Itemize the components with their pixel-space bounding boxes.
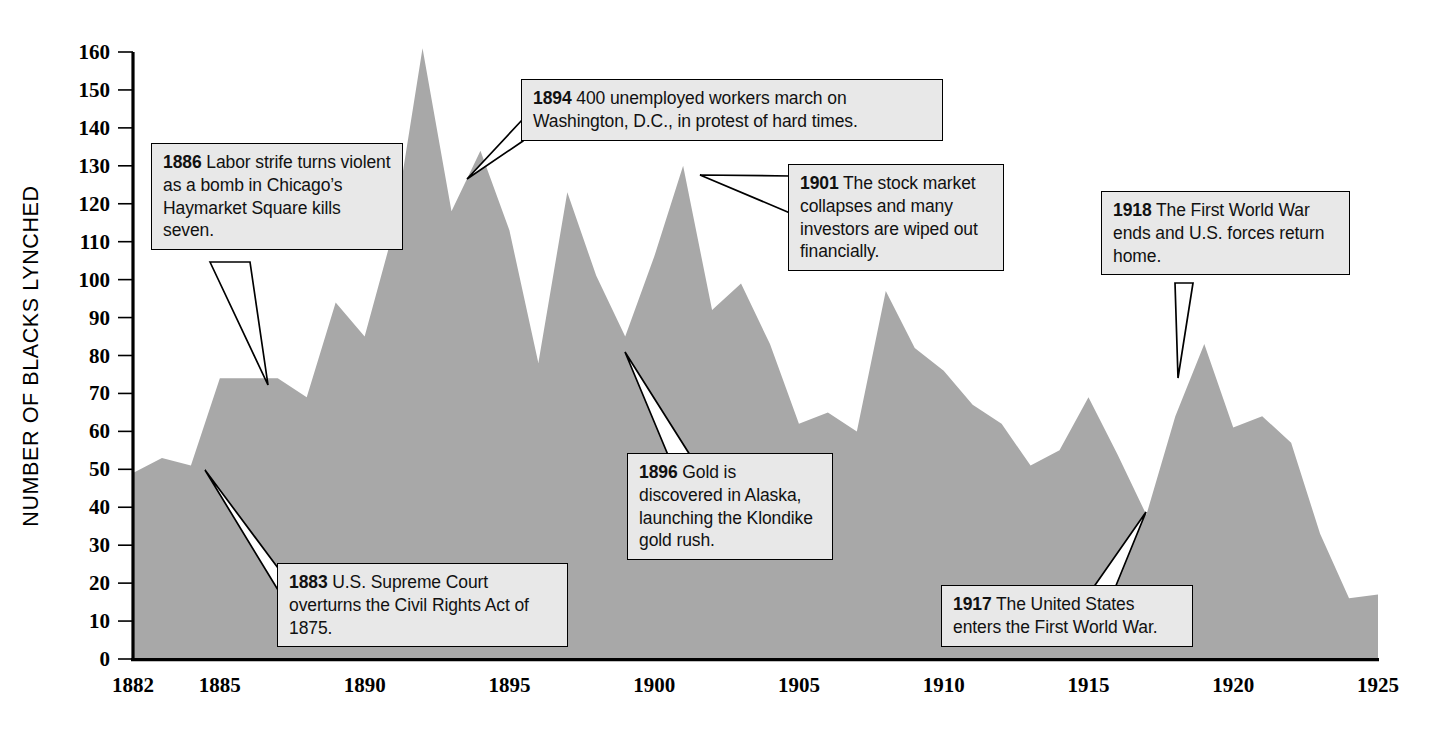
x-tick-label: 1895	[488, 673, 530, 697]
callout-1883-year: 1883	[289, 572, 328, 592]
x-tick-label: 1882	[112, 673, 154, 697]
y-tick-label: 140	[79, 116, 111, 140]
x-tick-label: 1890	[344, 673, 386, 697]
x-tick-label: 1905	[778, 673, 820, 697]
callout-1918-year: 1918	[1113, 200, 1152, 220]
callout-1901-year: 1901	[800, 173, 839, 193]
y-tick-label: 40	[89, 495, 110, 519]
y-tick-label: 70	[89, 381, 110, 405]
callout-1896-year: 1896	[639, 462, 678, 482]
callout-1894-year: 1894	[533, 88, 572, 108]
y-tick-label: 60	[89, 419, 110, 443]
callout-1901[interactable]: 1901 The stock market collapses and many…	[788, 164, 1004, 271]
callout-1886-year: 1886	[163, 152, 202, 172]
y-tick-label: 80	[89, 344, 110, 368]
y-tick-label: 160	[79, 40, 111, 64]
y-axis-title: NUMBER OF BLACKS LYNCHED	[19, 185, 43, 526]
x-tick-label: 1900	[633, 673, 675, 697]
callout-1894[interactable]: 1894 400 unemployed workers march on Was…	[521, 79, 943, 141]
y-tick-label: 90	[89, 306, 110, 330]
y-tick-label: 150	[79, 78, 111, 102]
y-tick-label: 0	[100, 647, 111, 671]
x-tick-label: 1910	[923, 673, 965, 697]
callout-1918[interactable]: 1918 The First World War ends and U.S. f…	[1101, 191, 1350, 275]
x-tick-label: 1915	[1067, 673, 1109, 697]
y-tick-label: 100	[79, 268, 111, 292]
x-tick-label: 1920	[1212, 673, 1254, 697]
callout-1883[interactable]: 1883 U.S. Supreme Court overturns the Ci…	[277, 563, 568, 647]
callout-1886[interactable]: 1886 Labor strife turns violent as a bom…	[151, 143, 403, 250]
y-tick-label: 50	[89, 457, 110, 481]
x-tick-label: 1925	[1357, 673, 1399, 697]
callout-1896[interactable]: 1896 Gold is discovered in Alaska, launc…	[627, 453, 833, 560]
y-tick-label: 110	[80, 230, 110, 254]
y-tick-label: 20	[89, 571, 110, 595]
callout-1894-text: 400 unemployed workers march on Washingt…	[533, 88, 858, 131]
callout-1917-year: 1917	[953, 594, 992, 614]
y-tick-label: 130	[79, 154, 111, 178]
x-tick-label: 1885	[199, 673, 241, 697]
y-tick-label: 10	[89, 609, 110, 633]
y-tick-label: 30	[89, 533, 110, 557]
chart-container: 0102030405060708090100110120130140150160…	[0, 0, 1439, 740]
y-tick-label: 120	[79, 192, 111, 216]
callout-1917[interactable]: 1917 The United States enters the First …	[941, 585, 1193, 647]
